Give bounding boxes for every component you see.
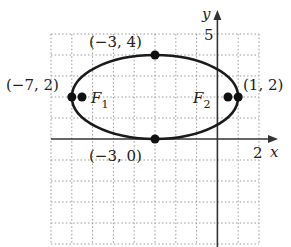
focus-2-label: F2 [192,89,210,111]
covertex-bottom-point [151,135,160,144]
axes [51,18,272,247]
focus-2-label-main: F [192,89,204,107]
focus-1-label: F1 [90,89,108,111]
covertex-bottom-label: (−3, 0) [89,147,142,165]
ellipse-graph: y 5 x 2 (−3, 4) (−3, 0) (−7, 2) (1, 2) F… [0,0,291,247]
vertex-right-point [234,93,243,102]
covertex-top-point [151,51,160,60]
focus-2-label-sub: 2 [203,98,210,111]
vertex-left-label: (−7, 2) [6,76,59,94]
x-axis-label: x [270,143,279,161]
x-axis-arrow-icon [268,135,278,143]
y-axis-arrow-icon [213,10,221,20]
focus-2-point [224,93,233,102]
x-tick-label: 2 [253,144,263,162]
y-axis-label: y [201,5,211,23]
covertex-top-label: (−3, 4) [89,33,142,51]
vertex-left-point [67,93,76,102]
y-tick-label: 5 [204,26,214,44]
focus-1-label-sub: 1 [101,98,108,111]
vertex-right-label: (1, 2) [243,76,283,94]
focus-1-label-main: F [90,89,102,107]
focus-1-point [78,93,87,102]
